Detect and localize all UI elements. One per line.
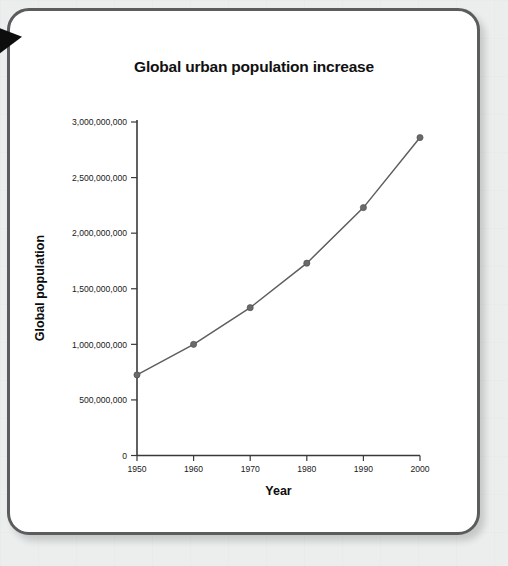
page-root: Global urban population increase 0500,00… xyxy=(0,0,508,566)
data-point xyxy=(417,134,423,140)
x-axis-title: Year xyxy=(265,484,292,498)
x-tick-label: 2000 xyxy=(410,464,429,474)
x-axis-ticks: 195019601970198019902000 xyxy=(127,456,429,475)
x-tick-label: 1950 xyxy=(127,464,146,474)
y-tick-label: 500,000,000 xyxy=(79,395,127,405)
chart-plot-area: 0500,000,0001,000,000,0001,500,000,0002,… xyxy=(0,0,508,566)
x-tick-label: 1980 xyxy=(297,464,316,474)
x-tick-label: 1970 xyxy=(241,464,260,474)
data-point xyxy=(134,372,140,378)
data-series-points xyxy=(134,134,423,378)
x-tick-label: 1960 xyxy=(184,464,203,474)
x-tick-label: 1990 xyxy=(354,464,373,474)
y-tick-label: 3,000,000,000 xyxy=(72,117,127,127)
y-tick-label: 2,000,000,000 xyxy=(72,228,127,238)
y-tick-label: 0 xyxy=(122,451,127,461)
data-point xyxy=(247,305,253,311)
y-tick-label: 2,500,000,000 xyxy=(72,173,127,183)
data-point xyxy=(304,260,310,266)
y-tick-label: 1,000,000,000 xyxy=(72,340,127,350)
y-axis-ticks: 0500,000,0001,000,000,0001,500,000,0002,… xyxy=(72,117,137,461)
line-chart-svg: 0500,000,0001,000,000,0001,500,000,0002,… xyxy=(0,0,508,566)
y-axis-title: Global population xyxy=(33,235,47,341)
data-point xyxy=(191,341,197,347)
data-point xyxy=(360,204,366,210)
data-series-line xyxy=(137,138,420,375)
y-tick-label: 1,500,000,000 xyxy=(72,284,127,294)
